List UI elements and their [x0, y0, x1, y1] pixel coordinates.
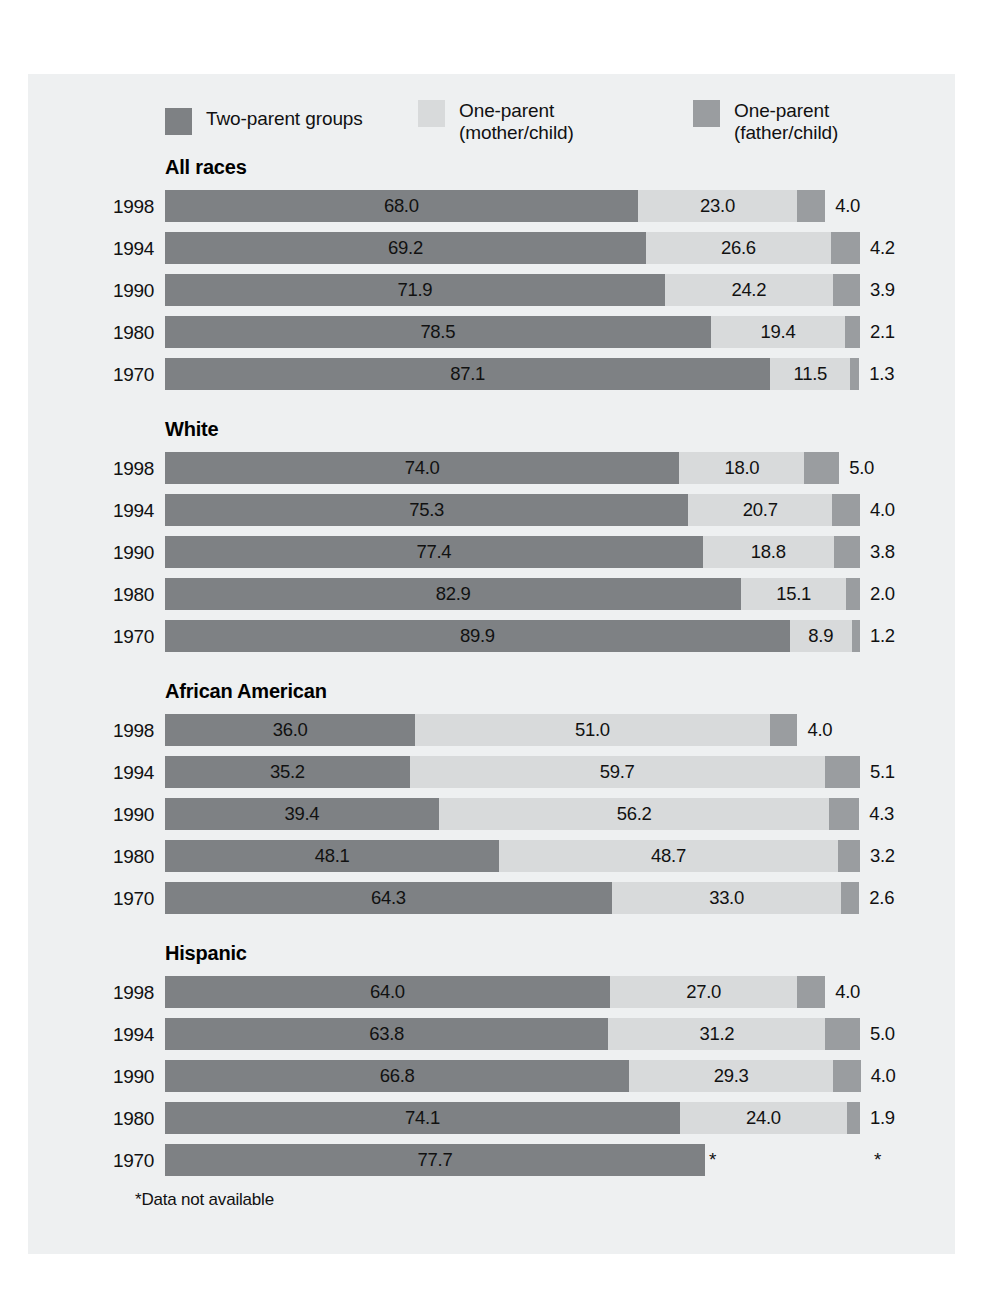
chart-figure: Two-parent groupsOne-parent (mother/chil…	[28, 74, 955, 1254]
bar-segment-value: 26.6	[721, 237, 756, 259]
bar-segment-one-parent-mother-child: 24.0	[680, 1102, 847, 1134]
legend-item-mother_child: One-parent (mother/child)	[418, 100, 574, 144]
bar-segment-value: 4.3	[869, 803, 894, 825]
stacked-bar: 74.124.01.9	[165, 1102, 920, 1134]
chart-group: All races199868.023.04.0199469.226.64.21…	[28, 156, 955, 400]
row-year-label: 1980	[82, 846, 154, 868]
bar-segment-one-parent-mother-child: 56.2	[439, 798, 830, 830]
bar-segment-two-parent-groups: 75.3	[165, 494, 688, 526]
bar-segment-one-parent-father-child: 3.9	[833, 274, 860, 306]
row-year-label: 1970	[82, 364, 154, 386]
stacked-bar: 35.259.75.1	[165, 756, 920, 788]
bar-segment-one-parent-father-child: *	[865, 1144, 894, 1176]
stacked-bar: 64.333.02.6	[165, 882, 919, 914]
row-year-label: 1994	[82, 500, 154, 522]
chart-row: 199836.051.04.0	[28, 714, 955, 746]
chart-group: Hispanic199864.027.04.0199463.831.25.019…	[28, 942, 955, 1186]
bar-segment-value: 74.1	[405, 1107, 440, 1129]
chart-row: 197089.98.91.2	[28, 620, 955, 652]
bar-segment-value: 5.0	[849, 457, 874, 479]
bar-segment-value: 48.1	[315, 845, 350, 867]
stacked-bar: 48.148.73.2	[165, 840, 920, 872]
bar-segment-value: 4.0	[871, 1065, 896, 1087]
legend-swatch-father_child	[693, 100, 720, 127]
row-year-label: 1990	[82, 280, 154, 302]
bar-segment-two-parent-groups: 36.0	[165, 714, 415, 746]
row-year-label: 1980	[82, 1108, 154, 1130]
bar-segment-value: 68.0	[384, 195, 419, 217]
bar-segment-one-parent-mother-child: 51.0	[415, 714, 769, 746]
bar-segment-value: 4.2	[870, 237, 895, 259]
stacked-bar: 64.027.04.0	[165, 976, 885, 1008]
bar-segment-value: 1.3	[869, 363, 894, 385]
bar-segment-two-parent-groups: 69.2	[165, 232, 646, 264]
bar-segment-value: 19.4	[761, 321, 796, 343]
bar-segment-value: 56.2	[617, 803, 652, 825]
stacked-bar: 74.018.05.0	[165, 452, 899, 484]
bar-segment-value: 64.0	[370, 981, 405, 1003]
bar-segment-two-parent-groups: 78.5	[165, 316, 711, 348]
bar-segment-value: 1.2	[870, 625, 895, 647]
bar-segment-value: 11.5	[794, 363, 827, 385]
chart-row: 199435.259.75.1	[28, 756, 955, 788]
stacked-bar: 78.519.42.1	[165, 316, 920, 348]
bar-segment-one-parent-mother-child: 18.0	[679, 452, 804, 484]
bar-segment-value: 29.3	[714, 1065, 749, 1087]
bar-segment-value: 3.8	[870, 541, 895, 563]
row-year-label: 1970	[82, 888, 154, 910]
stacked-bar: 82.915.12.0	[165, 578, 920, 610]
bar-segment-value: 87.1	[450, 363, 485, 385]
bar-segment-value: *	[709, 1149, 716, 1171]
bar-segment-value: 24.0	[746, 1107, 781, 1129]
stacked-bar: 39.456.24.3	[165, 798, 919, 830]
bar-segment-value: 23.0	[700, 195, 735, 217]
chart-row: 199066.829.34.0	[28, 1060, 955, 1092]
chart-row: 197064.333.02.6	[28, 882, 955, 914]
bar-segment-value: 5.0	[870, 1023, 895, 1045]
bar-segment-value: 69.2	[388, 237, 423, 259]
chart-row: 198078.519.42.1	[28, 316, 955, 348]
stacked-bar: 89.98.91.2	[165, 620, 920, 652]
chart-group: African American199836.051.04.0199435.25…	[28, 680, 955, 924]
bar-segment-value: 33.0	[709, 887, 744, 909]
chart-row: 199864.027.04.0	[28, 976, 955, 1008]
row-year-label: 1980	[82, 584, 154, 606]
bar-segment-value: 1.9	[870, 1107, 895, 1129]
chart-row: 198082.915.12.0	[28, 578, 955, 610]
bar-segment-one-parent-father-child: 5.0	[804, 452, 839, 484]
row-year-label: 1998	[82, 458, 154, 480]
bar-segment-two-parent-groups: 35.2	[165, 756, 410, 788]
bar-segment-two-parent-groups: 39.4	[165, 798, 439, 830]
bar-segment-one-parent-father-child: 5.1	[825, 756, 860, 788]
stacked-bar: 69.226.64.2	[165, 232, 920, 264]
bar-segment-value: 27.0	[686, 981, 721, 1003]
chart-row: 198074.124.01.9	[28, 1102, 955, 1134]
bar-segment-two-parent-groups: 66.8	[165, 1060, 629, 1092]
bar-segment-two-parent-groups: 63.8	[165, 1018, 608, 1050]
bar-segment-value: 78.5	[420, 321, 455, 343]
legend-item-father_child: One-parent (father/child)	[693, 100, 838, 144]
bar-segment-one-parent-father-child: 1.9	[847, 1102, 860, 1134]
bar-segment-value: 18.0	[724, 457, 759, 479]
row-year-label: 1998	[82, 720, 154, 742]
bar-segment-value: 3.2	[870, 845, 895, 867]
bar-segment-one-parent-father-child: 2.1	[845, 316, 860, 348]
bar-segment-one-parent-father-child: 2.6	[841, 882, 859, 914]
row-year-label: 1990	[82, 804, 154, 826]
chart-row: 199077.418.83.8	[28, 536, 955, 568]
bar-segment-two-parent-groups: 89.9	[165, 620, 790, 652]
bar-segment-one-parent-father-child: 4.0	[770, 714, 798, 746]
bar-segment-one-parent-mother-child: 11.5	[770, 358, 850, 390]
stacked-bar: 68.023.04.0	[165, 190, 885, 222]
bar-segment-one-parent-mother-child: 18.8	[703, 536, 834, 568]
row-year-label: 1990	[82, 542, 154, 564]
bar-segment-two-parent-groups: 64.0	[165, 976, 610, 1008]
stacked-bar: 87.111.51.3	[165, 358, 919, 390]
row-year-label: 1994	[82, 238, 154, 260]
legend-label-father_child: One-parent (father/child)	[734, 100, 838, 144]
bar-segment-value: 39.4	[285, 803, 320, 825]
bar-segment-value: 4.0	[807, 719, 832, 741]
stacked-bar: 77.7**	[165, 1144, 865, 1176]
row-year-label: 1970	[82, 1150, 154, 1172]
row-year-label: 1990	[82, 1066, 154, 1088]
